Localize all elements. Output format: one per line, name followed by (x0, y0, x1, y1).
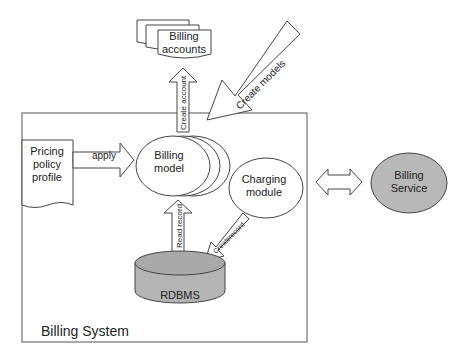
svg-text:Createrecord: Createrecord (212, 221, 246, 255)
create-models-arrow: Create models (207, 21, 300, 120)
apply-arrow: apply (73, 143, 134, 177)
svg-text:apply: apply (92, 150, 116, 161)
billing-accounts-node: Billing accounts (137, 20, 211, 58)
svg-text:policy: policy (33, 158, 62, 170)
svg-text:profile: profile (32, 171, 62, 183)
svg-text:RDBMS: RDBMS (160, 289, 200, 301)
billing-system-label: Billing System (41, 323, 129, 339)
svg-text:Billing: Billing (154, 149, 183, 161)
svg-text:Billing: Billing (169, 30, 198, 42)
svg-text:module: module (246, 186, 282, 198)
svg-text:Billing: Billing (394, 169, 423, 181)
rdbms-node: RDBMS (135, 251, 225, 303)
billing-architecture-diagram: Billing System Billing accounts Create a… (0, 0, 458, 356)
svg-text:model: model (154, 162, 184, 174)
svg-text:Service: Service (391, 182, 428, 194)
svg-text:Pricing: Pricing (30, 145, 64, 157)
create-record-arrow: Createrecord (205, 213, 249, 261)
read-record-arrow: Read record (164, 200, 192, 255)
svg-text:Create account: Create account (179, 75, 188, 130)
billing-model-node: Billing model (136, 136, 230, 196)
bidirectional-arrow (316, 169, 362, 195)
charging-module-node: Charging module (229, 158, 303, 218)
svg-text:Read record: Read record (175, 204, 184, 248)
create-account-arrow: Create account (169, 68, 197, 132)
svg-text:Charging: Charging (242, 173, 287, 185)
billing-service-node: Billing Service (371, 153, 447, 213)
pricing-policy-profile-node: Pricing policy profile (22, 140, 73, 208)
svg-text:accounts: accounts (162, 43, 207, 55)
